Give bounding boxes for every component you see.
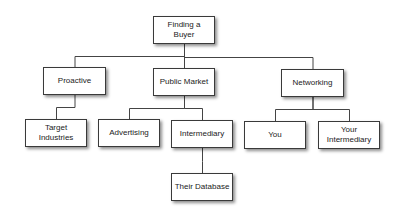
node-your-intermediary: Your Intermediary: [318, 121, 380, 149]
connector-proactive-to-target-industries: [57, 95, 76, 119]
connector-networking-to-you: [276, 97, 314, 121]
connector-root-to-networking: [185, 44, 314, 69]
connector-root-to-proactive: [75, 44, 185, 67]
connector-networking-to-your-intermediary: [313, 97, 350, 121]
node-proactive: Proactive: [43, 67, 106, 95]
node-target-industries: Target Industries: [25, 119, 87, 147]
connector-public-market-to-advertising: [130, 96, 185, 119]
node-finding-a-buyer: Finding a Buyer: [153, 16, 215, 44]
org-chart: Finding a Buyer Proactive Public Market …: [0, 0, 400, 220]
node-you: You: [244, 121, 306, 149]
connector-public-market-to-intermediary: [185, 96, 203, 120]
node-their-database: Their Database: [171, 173, 233, 201]
node-advertising: Advertising: [98, 119, 160, 147]
node-networking: Networking: [281, 69, 344, 97]
node-intermediary: Intermediary: [171, 120, 233, 148]
node-public-market: Public Market: [153, 68, 215, 96]
